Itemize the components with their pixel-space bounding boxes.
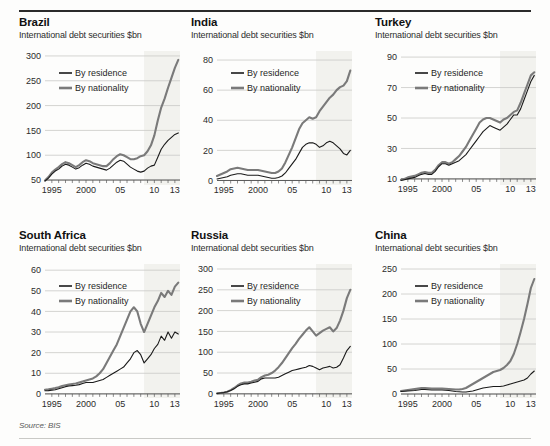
y-axis-tick-label: 150 xyxy=(382,314,397,324)
y-axis-tick-label: 0 xyxy=(208,176,213,186)
panel-subtitle: International debt securities $bn xyxy=(191,30,370,41)
y-axis-tick-label: 100 xyxy=(26,150,41,160)
x-axis-tick-label: 2000 xyxy=(248,399,268,409)
x-axis-tick-label: 1995 xyxy=(214,185,234,195)
y-axis-tick-label: 30 xyxy=(31,327,41,337)
y-axis-tick-label: 200 xyxy=(198,306,213,316)
x-axis-tick-label: 13 xyxy=(342,185,352,195)
chart-brazil: 5010015020025030019952000051013By reside… xyxy=(19,45,185,205)
legend-label-by-residence: By residence xyxy=(75,281,127,291)
x-axis-tick-label: 1995 xyxy=(42,185,62,195)
x-axis-tick-label: 2000 xyxy=(76,185,96,195)
x-axis-tick-label: 10 xyxy=(149,185,159,195)
legend-label-by-nationality: By nationality xyxy=(247,83,301,93)
y-axis-tick-label: 30 xyxy=(387,144,397,154)
y-axis-tick-label: 10 xyxy=(31,368,41,378)
x-axis-tick-label: 2000 xyxy=(432,184,452,194)
x-axis-tick-label: 2000 xyxy=(248,185,268,195)
y-axis-tick-label: 0 xyxy=(36,389,41,399)
panel-grid: Brazil International debt securities $bn… xyxy=(0,14,550,438)
y-axis-tick-label: 50 xyxy=(31,175,41,185)
figure-root: Brazil International debt securities $bn… xyxy=(0,0,550,446)
x-axis-tick-label: 13 xyxy=(342,399,352,409)
chart-china: 05010015020025019952000051013By residenc… xyxy=(375,258,550,418)
chart-india: 02040608019952000051013By residenceBy na… xyxy=(191,45,370,205)
legend-label-by-nationality: By nationality xyxy=(431,296,485,306)
y-axis-tick-label: 200 xyxy=(382,289,397,299)
x-axis-tick-label: 10 xyxy=(321,399,331,409)
chart-svg: 010203040506019952000051013By residenceB… xyxy=(19,258,185,418)
x-axis-tick-label: 05 xyxy=(115,399,125,409)
chart-svg: 02040608019952000051013By residenceBy na… xyxy=(191,45,357,205)
panel-subtitle: International debt securities $bn xyxy=(19,243,185,254)
y-axis-tick-label: 200 xyxy=(26,101,41,111)
y-axis-tick-label: 40 xyxy=(203,115,213,125)
y-axis-tick-label: 90 xyxy=(387,52,397,62)
panel-south-africa: South Africa International debt securiti… xyxy=(0,227,185,438)
panel-title: Turkey xyxy=(375,14,550,29)
legend-label-by-nationality: By nationality xyxy=(431,83,485,93)
x-axis-tick-label: 1995 xyxy=(42,399,62,409)
x-axis-tick-label: 1995 xyxy=(398,184,418,194)
panel-subtitle: International debt securities $bn xyxy=(191,243,370,254)
chart-turkey: 103050709019952000051013By residenceBy n… xyxy=(375,45,550,205)
chart-south-africa: 010203040506019952000051013By residenceB… xyxy=(19,258,185,418)
y-axis-tick-label: 50 xyxy=(387,113,397,123)
panel-russia: Russia International debt securities $bn… xyxy=(185,227,370,438)
top-rule xyxy=(19,10,531,12)
y-axis-tick-label: 0 xyxy=(208,389,213,399)
y-axis-tick-label: 50 xyxy=(387,364,397,374)
legend-label-by-residence: By residence xyxy=(431,68,483,78)
x-axis-tick-label: 13 xyxy=(526,184,536,194)
panel-title: Russia xyxy=(191,227,370,242)
y-axis-tick-label: 60 xyxy=(31,265,41,275)
y-axis-tick-label: 20 xyxy=(31,348,41,358)
y-axis-tick-label: 40 xyxy=(31,307,41,317)
y-axis-tick-label: 10 xyxy=(387,174,397,184)
x-axis-tick-label: 1995 xyxy=(398,399,418,409)
y-axis-tick-label: 50 xyxy=(31,286,41,296)
x-axis-tick-label: 10 xyxy=(505,184,515,194)
x-axis-tick-label: 05 xyxy=(287,185,297,195)
legend-label-by-nationality: By nationality xyxy=(75,83,129,93)
y-axis-tick-label: 60 xyxy=(203,85,213,95)
x-axis-tick-label: 2000 xyxy=(432,399,452,409)
y-axis-tick-label: 0 xyxy=(392,389,397,399)
y-axis-tick-label: 150 xyxy=(198,327,213,337)
y-axis-tick-label: 150 xyxy=(26,126,41,136)
panel-title: India xyxy=(191,14,370,29)
chart-svg: 103050709019952000051013By residenceBy n… xyxy=(375,45,541,205)
panel-india: India International debt securities $bn … xyxy=(185,14,370,227)
x-axis-tick-label: 13 xyxy=(170,185,180,195)
panel-brazil: Brazil International debt securities $bn… xyxy=(0,14,185,227)
legend-label-by-residence: By residence xyxy=(431,281,483,291)
panel-china: China International debt securities $bn … xyxy=(370,227,550,438)
panel-subtitle: International debt securities $bn xyxy=(375,30,550,41)
x-axis-tick-label: 05 xyxy=(287,399,297,409)
chart-svg: 05010015020025030019952000051013By resid… xyxy=(191,258,357,418)
y-axis-tick-label: 100 xyxy=(198,347,213,357)
x-axis-tick-label: 05 xyxy=(115,185,125,195)
x-axis-tick-label: 05 xyxy=(471,184,481,194)
legend-label-by-residence: By residence xyxy=(247,281,299,291)
y-axis-tick-label: 250 xyxy=(198,285,213,295)
legend-label-by-nationality: By nationality xyxy=(247,296,301,306)
chart-russia: 05010015020025030019952000051013By resid… xyxy=(191,258,370,418)
panel-subtitle: International debt securities $bn xyxy=(19,30,185,41)
x-axis-tick-label: 10 xyxy=(505,399,515,409)
y-axis-tick-label: 250 xyxy=(382,264,397,274)
y-axis-tick-label: 20 xyxy=(203,146,213,156)
chart-svg: 5010015020025030019952000051013By reside… xyxy=(19,45,185,205)
source-note: Source: BIS xyxy=(19,421,61,430)
x-axis-tick-label: 13 xyxy=(170,399,180,409)
legend-label-by-residence: By residence xyxy=(75,68,127,78)
panel-turkey: Turkey International debt securities $bn… xyxy=(370,14,550,227)
y-axis-tick-label: 100 xyxy=(382,339,397,349)
y-axis-tick-label: 300 xyxy=(198,264,213,274)
x-axis-tick-label: 10 xyxy=(321,185,331,195)
panel-subtitle: International debt securities $bn xyxy=(375,243,550,254)
chart-svg: 05010015020025019952000051013By residenc… xyxy=(375,258,541,418)
x-axis-tick-label: 05 xyxy=(471,399,481,409)
bottom-rule xyxy=(19,438,531,439)
x-axis-tick-label: 10 xyxy=(149,399,159,409)
